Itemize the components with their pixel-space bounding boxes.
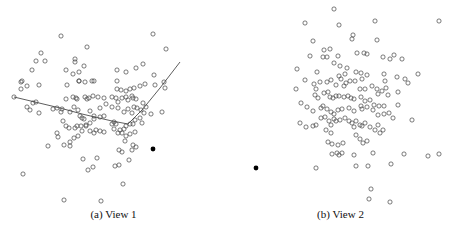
scatter-plot-view-1 xyxy=(0,0,227,210)
data-point xyxy=(162,80,166,84)
data-point xyxy=(112,127,116,131)
data-point xyxy=(149,112,153,116)
data-point xyxy=(86,168,90,172)
scatter-plot-view-2 xyxy=(227,0,454,210)
data-point xyxy=(437,152,441,156)
data-point xyxy=(361,141,365,145)
data-point xyxy=(363,87,367,91)
data-point xyxy=(352,153,356,157)
data-point xyxy=(350,37,354,41)
data-point xyxy=(338,64,342,68)
data-point xyxy=(46,144,50,148)
data-point xyxy=(113,164,117,168)
data-point xyxy=(91,165,95,169)
data-point xyxy=(352,125,356,129)
data-point xyxy=(350,121,354,125)
data-point xyxy=(131,143,135,147)
data-point xyxy=(92,131,96,135)
data-point xyxy=(126,98,130,102)
data-point xyxy=(68,140,72,144)
data-point xyxy=(153,83,157,87)
data-point xyxy=(337,23,341,27)
data-point xyxy=(329,123,333,127)
data-point xyxy=(128,87,132,91)
data-point xyxy=(336,54,340,58)
data-point xyxy=(96,95,100,99)
data-point xyxy=(330,152,334,156)
data-point xyxy=(62,198,66,202)
data-point xyxy=(388,57,392,61)
data-point xyxy=(119,88,123,92)
data-point xyxy=(37,83,41,87)
data-point xyxy=(140,121,144,125)
data-point xyxy=(30,68,34,72)
data-point xyxy=(360,77,364,81)
data-point xyxy=(102,96,106,100)
data-point xyxy=(371,151,375,155)
data-point xyxy=(120,131,124,135)
data-point xyxy=(376,123,380,127)
data-point xyxy=(75,97,79,101)
data-point xyxy=(98,129,102,133)
data-point xyxy=(376,92,380,96)
data-point xyxy=(348,79,352,83)
data-point xyxy=(341,141,345,145)
data-point xyxy=(127,158,131,162)
data-point xyxy=(365,139,369,143)
data-point xyxy=(367,197,371,201)
data-point xyxy=(343,72,347,76)
data-point xyxy=(141,101,145,105)
data-point xyxy=(142,111,146,115)
data-point xyxy=(120,96,124,100)
data-point xyxy=(303,78,307,82)
data-point xyxy=(128,132,132,136)
data-point xyxy=(59,34,63,38)
data-point xyxy=(110,95,114,99)
data-point xyxy=(98,106,102,110)
data-point xyxy=(124,89,128,93)
data-point xyxy=(368,98,372,102)
data-point xyxy=(133,118,137,122)
data-point xyxy=(55,131,59,135)
data-point xyxy=(319,116,323,120)
data-point xyxy=(61,119,65,123)
data-point xyxy=(323,115,327,119)
data-point xyxy=(311,39,315,43)
data-point xyxy=(316,96,320,100)
data-point xyxy=(102,114,106,118)
data-point xyxy=(371,108,375,112)
data-point xyxy=(329,110,333,114)
data-point xyxy=(37,111,41,115)
data-point xyxy=(336,143,340,147)
data-point xyxy=(65,83,69,87)
data-point xyxy=(372,103,376,107)
data-point xyxy=(338,118,342,122)
highlighted-point xyxy=(151,147,156,152)
data-point xyxy=(138,116,142,120)
data-point xyxy=(384,86,388,90)
data-point xyxy=(85,45,89,49)
data-point xyxy=(358,137,362,141)
data-point xyxy=(143,82,147,86)
data-point xyxy=(95,156,99,160)
caption-view-1: (a) View 1 xyxy=(0,208,227,220)
panel-view-2: (b) View 2 xyxy=(227,0,454,231)
data-point xyxy=(315,70,319,74)
data-point xyxy=(76,134,80,138)
data-point xyxy=(346,94,350,98)
data-point xyxy=(314,166,318,170)
data-point xyxy=(124,70,128,74)
data-point xyxy=(64,97,68,101)
data-point xyxy=(332,7,336,11)
data-point xyxy=(402,152,406,156)
data-point xyxy=(117,148,121,152)
data-point xyxy=(124,124,128,128)
data-point xyxy=(118,128,122,132)
data-point xyxy=(365,105,369,109)
data-point xyxy=(305,105,309,109)
data-point xyxy=(34,59,38,63)
data-point xyxy=(81,157,85,161)
data-point xyxy=(152,73,156,77)
data-point xyxy=(115,68,119,72)
principal-curve xyxy=(14,62,180,124)
